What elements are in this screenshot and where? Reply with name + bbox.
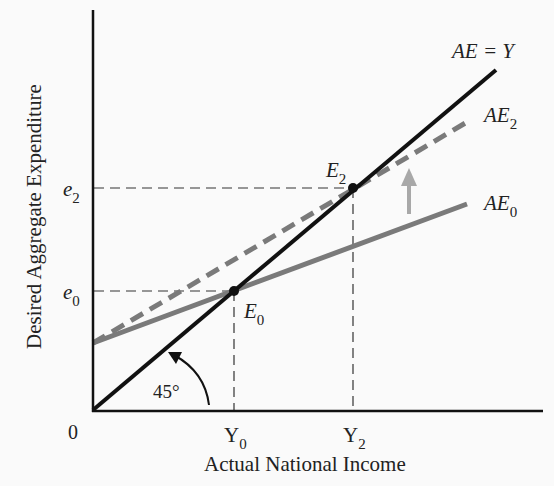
ae2-label: AE2	[482, 103, 517, 132]
aggregate-expenditure-diagram: AE = Y AE2 AE0 E2 E0 e2 e0 Y0 Y2 0 45° A…	[0, 0, 554, 486]
ae0-label: AE0	[482, 191, 517, 220]
e0-point-label: E0	[243, 299, 264, 328]
ae2-line	[93, 122, 467, 343]
e2-tick-label: e2	[63, 177, 80, 206]
e0-point	[229, 286, 239, 296]
ae-equals-y-line	[93, 70, 496, 410]
y0-tick-label: Y0	[224, 423, 247, 452]
y-axis-label: Desired Aggregate Expenditure	[22, 84, 46, 349]
e0-tick-label: e0	[63, 280, 80, 309]
x-axis-label: Actual National Income	[204, 452, 406, 476]
ae-equals-y-label: AE = Y	[450, 39, 516, 63]
shift-up-arrow-icon	[401, 168, 417, 214]
y2-tick-label: Y2	[343, 423, 366, 452]
origin-label: 0	[68, 421, 78, 443]
e2-point	[348, 183, 358, 193]
angle-label: 45°	[153, 381, 180, 402]
ae0-line	[93, 204, 467, 343]
e2-point-label: E2	[325, 158, 346, 187]
